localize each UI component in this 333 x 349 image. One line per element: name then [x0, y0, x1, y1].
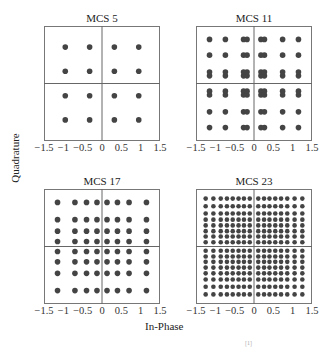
constellation-point: [225, 196, 230, 201]
constellation-point: [242, 265, 247, 270]
constellation-point: [285, 277, 290, 282]
constellation-point: [236, 277, 241, 282]
x-tick-label: −1: [210, 305, 221, 316]
constellation-point: [285, 260, 290, 265]
constellation-point: [211, 240, 216, 245]
constellation-point: [300, 223, 305, 228]
constellation-point: [256, 234, 261, 239]
constellation-point: [262, 211, 267, 216]
constellation-point: [225, 248, 230, 253]
constellation-point: [292, 223, 297, 228]
constellation-point: [211, 204, 216, 209]
constellation-point: [230, 277, 235, 282]
constellation-point: [247, 292, 252, 297]
constellation-point: [300, 248, 305, 253]
constellation-point: [236, 254, 241, 259]
constellation-point: [242, 211, 247, 216]
constellation-point: [279, 204, 284, 209]
constellation-point: [267, 254, 272, 259]
constellation-point: [262, 271, 267, 276]
constellation-point: [285, 211, 290, 216]
constellation-point: [267, 196, 272, 201]
constellation-point: [218, 217, 223, 222]
constellation-point: [203, 240, 208, 245]
constellation-point: [225, 223, 230, 228]
constellation-point: [285, 248, 290, 253]
constellation-point: [292, 204, 297, 209]
constellation-point: [230, 223, 235, 228]
constellation-point: [242, 217, 247, 222]
constellation-point: [279, 284, 284, 289]
constellation-point: [262, 229, 267, 234]
constellation-point: [279, 240, 284, 245]
constellation-point: [242, 223, 247, 228]
constellation-point: [300, 254, 305, 259]
constellation-point: [279, 248, 284, 253]
constellation-point: [267, 260, 272, 265]
constellation-point: [247, 211, 252, 216]
constellation-point: [203, 223, 208, 228]
constellation-point: [230, 204, 235, 209]
constellation-point: [285, 271, 290, 276]
constellation-point: [225, 277, 230, 282]
constellation-point: [256, 229, 261, 234]
constellation-point: [247, 196, 252, 201]
constellation-point: [256, 223, 261, 228]
constellation-point: [273, 248, 278, 253]
constellation-point: [236, 196, 241, 201]
constellation-point: [242, 292, 247, 297]
constellation-point: [242, 234, 247, 239]
constellation-point: [267, 211, 272, 216]
constellation-point: [218, 211, 223, 216]
constellation-point: [203, 254, 208, 259]
constellation-point: [225, 265, 230, 270]
constellation-point: [230, 284, 235, 289]
constellation-point: [236, 265, 241, 270]
constellation-point: [225, 284, 230, 289]
x-tick-label: 0.5: [267, 305, 280, 316]
constellation-point: [267, 265, 272, 270]
constellation-point: [292, 271, 297, 276]
plot-svg: [0, 0, 333, 349]
constellation-point: [256, 248, 261, 253]
constellation-point: [262, 254, 267, 259]
constellation-point: [225, 234, 230, 239]
constellation-point: [292, 265, 297, 270]
constellation-point: [203, 265, 208, 270]
constellation-point: [247, 271, 252, 276]
constellation-point: [279, 254, 284, 259]
constellation-point: [267, 248, 272, 253]
constellation-point: [300, 211, 305, 216]
constellation-point: [230, 196, 235, 201]
constellation-point: [242, 271, 247, 276]
constellation-point: [267, 284, 272, 289]
constellation-point: [285, 284, 290, 289]
constellation-point: [230, 248, 235, 253]
constellation-point: [247, 229, 252, 234]
constellation-point: [247, 284, 252, 289]
constellation-point: [218, 229, 223, 234]
constellation-point: [218, 196, 223, 201]
constellation-point: [292, 234, 297, 239]
constellation-point: [211, 223, 216, 228]
caption-fragment: [1]: [245, 340, 252, 346]
constellation-point: [242, 204, 247, 209]
constellation-point: [256, 240, 261, 245]
constellation-point: [211, 196, 216, 201]
constellation-point: [218, 265, 223, 270]
constellation-point: [262, 284, 267, 289]
constellation-point: [273, 223, 278, 228]
constellation-point: [236, 248, 241, 253]
constellation-point: [279, 271, 284, 276]
constellation-point: [273, 292, 278, 297]
constellation-point: [218, 271, 223, 276]
constellation-point: [211, 292, 216, 297]
constellation-point: [279, 196, 284, 201]
constellation-point: [273, 217, 278, 222]
constellation-point: [203, 234, 208, 239]
constellation-point: [218, 254, 223, 259]
constellation-point: [218, 234, 223, 239]
constellation-point: [256, 260, 261, 265]
constellation-point: [236, 229, 241, 234]
constellation-point: [236, 211, 241, 216]
